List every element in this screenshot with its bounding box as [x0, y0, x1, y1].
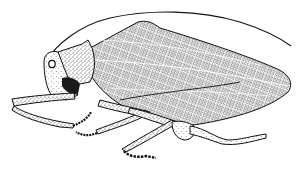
katydid-illustration [0, 0, 302, 170]
katydid-drawing [0, 0, 302, 170]
hind-leg-tibia [122, 120, 176, 152]
hind-leg-tarsus [124, 151, 156, 158]
front-leg-tibia [12, 106, 74, 128]
eye [49, 60, 55, 67]
front-leg-tarsus [73, 112, 91, 126]
ovipositor [190, 126, 266, 145]
middle-leg-tarsus [76, 132, 97, 135]
front-leg-femur [12, 93, 75, 106]
